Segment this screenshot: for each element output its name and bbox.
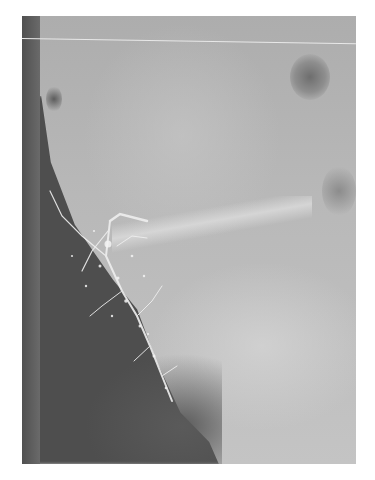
upper-left-lucency — [46, 86, 62, 112]
lower-soft-tissue — [22, 346, 222, 464]
contrast-duct-branches — [22, 16, 356, 464]
soft-tissue-dark-region — [22, 96, 262, 464]
bony-ridge — [112, 196, 312, 256]
radiograph-image: Grayscale X-ray showing branching contra… — [22, 16, 356, 464]
dark-air-column — [22, 16, 40, 464]
orbit-lucency — [290, 54, 330, 100]
bone-field — [22, 16, 356, 464]
lucency-right — [322, 166, 356, 216]
scan-line-artifact — [22, 38, 356, 44]
